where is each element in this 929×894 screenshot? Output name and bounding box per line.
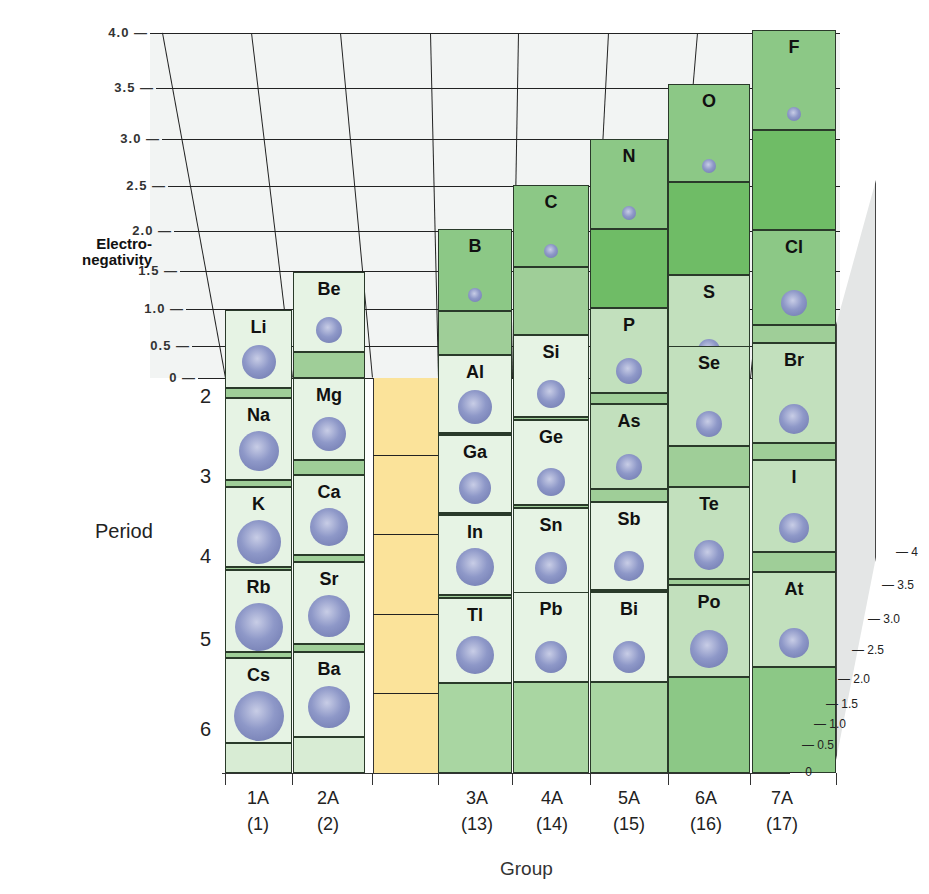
element-tile-Mg[interactable]: Mg <box>293 378 365 460</box>
element-tile-Tl[interactable]: Tl <box>438 598 512 683</box>
transition-row-divider <box>373 455 439 456</box>
element-tile-Ga[interactable]: Ga <box>438 435 512 513</box>
element-tile-F[interactable]: F <box>752 30 836 130</box>
depth-tick-label: — 2.5 <box>852 643 884 657</box>
column-base <box>590 682 668 773</box>
element-tile-Ca[interactable]: Ca <box>293 475 365 555</box>
column-base <box>438 683 512 773</box>
element-tile-Al[interactable]: Al <box>438 355 512 433</box>
element-symbol: At <box>753 579 835 600</box>
element-tile-Cl[interactable]: Cl <box>752 230 836 325</box>
x-tick <box>372 773 373 785</box>
element-tile-C[interactable]: C <box>513 185 589 267</box>
element-symbol: B <box>439 236 511 257</box>
element-tile-Rb[interactable]: Rb <box>225 570 292 652</box>
x-tick <box>668 773 669 785</box>
element-tile-At[interactable]: At <box>752 572 836 667</box>
element-tile-Ge[interactable]: Ge <box>513 420 589 505</box>
atom-size-icon <box>535 552 567 584</box>
group-label-letter: 2A <box>298 785 358 811</box>
element-tile-Pb[interactable]: Pb <box>513 592 589 682</box>
element-tile-Bi[interactable]: Bi <box>590 592 668 682</box>
element-symbol: Pb <box>514 599 588 620</box>
bar-top-face <box>293 644 365 652</box>
y-tick-label: 0 — <box>136 370 196 385</box>
element-tile-B[interactable]: B <box>438 229 512 311</box>
group-label: 3A(13) <box>447 785 507 837</box>
transition-row-divider <box>373 614 439 615</box>
element-symbol: Tl <box>439 605 511 626</box>
x-tick <box>836 773 837 785</box>
element-tile-Be[interactable]: Be <box>293 272 365 352</box>
y-axis-title: Electro- negativity <box>2 236 152 268</box>
group-axis-title: Group <box>500 858 553 880</box>
element-symbol: Po <box>669 592 749 613</box>
element-symbol: Bi <box>591 599 667 620</box>
depth-tick-label: — 2.0 <box>838 672 870 686</box>
element-tile-K[interactable]: K <box>225 487 292 567</box>
atom-size-icon <box>781 290 807 316</box>
element-symbol: F <box>753 37 835 58</box>
element-tile-Li[interactable]: Li <box>225 310 292 388</box>
element-tile-I[interactable]: I <box>752 460 836 552</box>
group-label: 7A(17) <box>752 785 812 837</box>
element-symbol: In <box>439 522 511 543</box>
element-tile-Na[interactable]: Na <box>225 398 292 480</box>
bar-top-face <box>590 393 668 404</box>
bar-top-face <box>225 480 292 487</box>
group-label: 6A(16) <box>676 785 736 837</box>
element-tile-Sn[interactable]: Sn <box>513 508 589 593</box>
x-tick <box>750 773 751 785</box>
element-symbol: Te <box>669 494 749 515</box>
element-symbol: Si <box>514 342 588 363</box>
x-tick <box>438 773 439 785</box>
atom-size-icon <box>787 107 801 121</box>
element-tile-N[interactable]: N <box>590 139 668 229</box>
atom-size-icon <box>544 244 558 258</box>
element-tile-Sr[interactable]: Sr <box>293 562 365 644</box>
group-label-letter: 5A <box>599 785 659 811</box>
period-label: 4 <box>200 545 211 568</box>
atom-size-icon <box>535 641 567 673</box>
atom-size-icon <box>622 206 636 220</box>
depth-tick-label: — 4 <box>896 545 918 559</box>
element-tile-Cs[interactable]: Cs <box>225 658 292 743</box>
atom-size-icon <box>702 159 716 173</box>
period-label: 2 <box>200 385 211 408</box>
element-tile-In[interactable]: In <box>438 515 512 595</box>
element-symbol: O <box>669 91 749 112</box>
element-tile-As[interactable]: As <box>590 404 668 489</box>
element-tile-Po[interactable]: Po <box>668 585 750 677</box>
element-tile-Ba[interactable]: Ba <box>293 652 365 737</box>
element-tile-P[interactable]: P <box>590 308 668 393</box>
element-symbol: K <box>226 494 291 515</box>
element-tile-Si[interactable]: Si <box>513 335 589 417</box>
group-label-letter: 7A <box>752 785 812 811</box>
element-tile-Sb[interactable]: Sb <box>590 502 668 590</box>
group-label-letter: 1A <box>228 785 288 811</box>
atom-size-icon <box>537 380 565 408</box>
y-axis-title-line2: negativity <box>2 252 152 268</box>
element-tile-Te[interactable]: Te <box>668 487 750 579</box>
depth-tick-label: — 3.5 <box>882 578 914 592</box>
element-tile-Br[interactable]: Br <box>752 343 836 443</box>
group-label-letter: 3A <box>447 785 507 811</box>
column-base <box>293 737 365 773</box>
bar-top-face <box>225 388 292 398</box>
transition-row-divider <box>373 693 439 694</box>
element-symbol: Br <box>753 350 835 371</box>
element-tile-Se[interactable]: Se <box>668 346 750 446</box>
period-label: 3 <box>200 465 211 488</box>
atom-size-icon <box>242 345 276 379</box>
element-symbol: P <box>591 315 667 336</box>
element-symbol: Ge <box>514 427 588 448</box>
atom-size-icon <box>613 641 645 673</box>
group-label: 4A(14) <box>522 785 582 837</box>
group-label: 5A(15) <box>599 785 659 837</box>
element-tile-O[interactable]: O <box>668 84 750 182</box>
atom-size-icon <box>694 540 724 570</box>
group-label-letter: 6A <box>676 785 736 811</box>
period-label: 5 <box>200 628 211 651</box>
group-label-number: (2) <box>298 811 358 837</box>
element-symbol: Cl <box>753 237 835 258</box>
